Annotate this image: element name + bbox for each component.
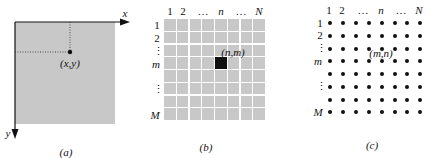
sample-dot-icon <box>328 72 332 76</box>
row-label: M <box>150 110 159 121</box>
pixel-cell <box>202 108 214 120</box>
sample-dot-icon <box>393 85 397 89</box>
pixel-cell <box>177 96 189 108</box>
pixel-cell <box>164 70 176 82</box>
pixel-cell <box>202 70 214 82</box>
row-label: m <box>152 59 160 70</box>
pixel-cell <box>253 19 265 31</box>
sample-dot-icon <box>393 110 397 114</box>
pixel-cell <box>164 83 176 95</box>
row-label: ⋮ <box>153 84 164 95</box>
pixel-cell <box>241 108 253 120</box>
sample-dot-icon <box>418 21 422 25</box>
pixel-cell <box>164 19 176 31</box>
sample-dot-icon <box>380 98 384 102</box>
x-axis-label: x <box>123 8 128 19</box>
pixel-cell <box>177 45 189 57</box>
pixel-cell <box>164 45 176 57</box>
sample-dot-icon <box>328 59 332 63</box>
pixel-cell <box>190 32 202 44</box>
sample-dot-icon <box>367 21 371 25</box>
pixel-cell <box>241 57 253 69</box>
sample-dot-icon <box>341 72 345 76</box>
sample-dot-icon <box>341 110 345 114</box>
pixel-cell <box>241 19 253 31</box>
sample-dot-icon <box>380 72 384 76</box>
sample-dot-icon <box>405 85 409 89</box>
sample-dot-icon <box>354 98 358 102</box>
pixel-cell <box>177 32 189 44</box>
row-label: ⋮ <box>316 43 327 54</box>
row-label: m <box>314 56 322 67</box>
pixel-cell <box>190 45 202 57</box>
pixel-cell <box>241 32 253 44</box>
pixel-cell <box>190 70 202 82</box>
col-label: … <box>236 6 247 17</box>
pixel-cell <box>253 83 265 95</box>
sample-dot-icon <box>418 72 422 76</box>
sample-dot-icon <box>367 34 371 38</box>
highlighted-pixel-cell <box>215 57 227 69</box>
pixel-cell <box>177 83 189 95</box>
pixel-cell <box>202 96 214 108</box>
sample-dot-icon <box>380 21 384 25</box>
sample-point-label: (m,n) <box>369 48 393 59</box>
row-label: ⋮ <box>153 46 164 57</box>
pixel-cell <box>228 57 240 69</box>
pixel-cell <box>177 19 189 31</box>
sample-dot-icon <box>393 34 397 38</box>
row-label: 1 <box>317 18 323 29</box>
pixel-cell <box>215 108 227 120</box>
row-label: 2 <box>317 30 323 41</box>
sample-dot-icon <box>354 21 358 25</box>
pixel-cell <box>241 70 253 82</box>
sample-dot-icon <box>393 59 397 63</box>
pixel-cell <box>164 108 176 120</box>
y-axis-arrow-icon <box>12 129 19 139</box>
sample-dot-icon <box>341 85 345 89</box>
sample-dot-icon <box>393 21 397 25</box>
sample-dot-icon <box>418 34 422 38</box>
pixel-cell <box>177 108 189 120</box>
pixel-cell <box>190 57 202 69</box>
sample-dot-icon <box>367 59 371 63</box>
sample-dot-icon <box>328 21 332 25</box>
sample-dot-icon <box>354 47 358 51</box>
sample-dot-icon <box>367 72 371 76</box>
pixel-cell <box>241 96 253 108</box>
col-label: n <box>218 6 224 17</box>
sample-dot-icon <box>328 47 332 51</box>
pixel-cell <box>253 32 265 44</box>
sample-dot-icon <box>354 34 358 38</box>
y-axis-label: y <box>6 128 11 139</box>
sample-dot-icon <box>405 98 409 102</box>
pixel-cell <box>215 32 227 44</box>
caption-c: (c) <box>366 140 378 151</box>
row-label: ⋮ <box>316 81 327 92</box>
pixel-cell <box>202 45 214 57</box>
sample-dot-icon <box>341 47 345 51</box>
col-label: … <box>198 6 209 17</box>
pixel-cell <box>215 19 227 31</box>
pixel-cell <box>202 32 214 44</box>
sample-dot-icon <box>405 59 409 63</box>
pixel-cell <box>228 96 240 108</box>
pixel-cell <box>202 19 214 31</box>
pixel-cell <box>190 96 202 108</box>
pixel-cell <box>228 83 240 95</box>
sample-point-icon <box>68 50 72 54</box>
sample-dot-icon <box>341 59 345 63</box>
sample-dot-icon <box>328 85 332 89</box>
col-label: N <box>415 5 422 16</box>
sample-dot-icon <box>380 34 384 38</box>
pixel-cell <box>228 70 240 82</box>
sample-dot-icon <box>405 34 409 38</box>
row-label: 2 <box>154 33 160 44</box>
pixel-cell <box>177 57 189 69</box>
pixel-cell <box>164 32 176 44</box>
pixel-cell <box>228 108 240 120</box>
x-axis-arrow-icon <box>120 19 130 26</box>
pixel-cell <box>253 108 265 120</box>
sample-dot-icon <box>380 59 384 63</box>
sample-dot-icon <box>405 110 409 114</box>
